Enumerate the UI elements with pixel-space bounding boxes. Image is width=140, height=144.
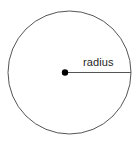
radius-label: radius	[83, 56, 114, 68]
center-point	[62, 69, 68, 75]
circle-radius-figure: radius	[0, 0, 140, 144]
geometry-canvas	[0, 0, 140, 144]
